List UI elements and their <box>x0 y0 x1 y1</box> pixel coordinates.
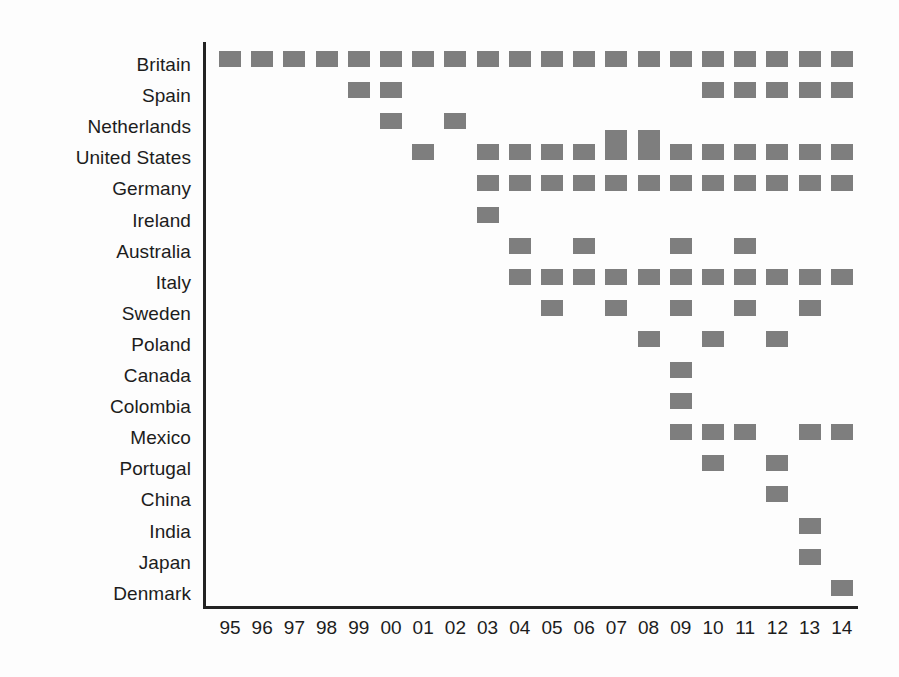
cell-marker <box>509 144 531 160</box>
cell-marker <box>734 175 756 191</box>
cell-marker <box>412 144 434 160</box>
cell-marker <box>380 51 402 67</box>
cell-marker <box>219 51 241 67</box>
cell-marker <box>477 51 499 67</box>
cell-marker <box>670 362 692 378</box>
cell-marker <box>831 175 853 191</box>
cell-marker <box>831 269 853 285</box>
cell-marker <box>702 82 724 98</box>
cell-marker <box>541 269 563 285</box>
cell-marker <box>605 175 627 191</box>
cell-marker <box>670 238 692 254</box>
cell-marker <box>766 269 788 285</box>
cell-marker <box>799 549 821 565</box>
cell-marker <box>541 175 563 191</box>
x-axis-tick-labels: 9596979899000102030405060708091011121314 <box>0 616 899 646</box>
cell-marker <box>670 424 692 440</box>
cell-marker <box>605 300 627 316</box>
cell-marker <box>316 51 338 67</box>
cell-marker <box>702 175 724 191</box>
cell-marker <box>638 130 660 160</box>
cell-marker <box>831 580 853 596</box>
cell-marker <box>670 300 692 316</box>
cell-marker <box>477 144 499 160</box>
cell-marker <box>509 51 531 67</box>
cell-marker <box>380 82 402 98</box>
cell-marker <box>670 175 692 191</box>
cell-marker <box>766 455 788 471</box>
cell-marker <box>444 113 466 129</box>
cell-marker <box>380 113 402 129</box>
cell-marker <box>573 144 595 160</box>
cell-marker <box>702 269 724 285</box>
cell-marker <box>702 51 724 67</box>
cell-marker <box>766 486 788 502</box>
cell-marker <box>638 51 660 67</box>
cell-marker <box>541 300 563 316</box>
cell-marker <box>509 238 531 254</box>
cell-marker <box>605 51 627 67</box>
cell-marker <box>573 238 595 254</box>
cell-marker <box>734 238 756 254</box>
cell-marker <box>477 207 499 223</box>
cell-marker <box>573 51 595 67</box>
cell-marker <box>605 130 627 160</box>
cell-marker <box>766 51 788 67</box>
cell-marker <box>348 82 370 98</box>
cell-marker <box>734 82 756 98</box>
cell-marker <box>734 424 756 440</box>
cell-marker <box>831 424 853 440</box>
cell-marker <box>799 175 821 191</box>
cell-marker <box>799 424 821 440</box>
cell-marker <box>573 269 595 285</box>
cell-marker <box>444 51 466 67</box>
cell-marker <box>734 144 756 160</box>
cell-marker <box>734 269 756 285</box>
cell-marker <box>799 144 821 160</box>
cell-marker <box>670 51 692 67</box>
cell-marker <box>799 51 821 67</box>
cell-marker <box>509 269 531 285</box>
cell-marker <box>573 175 595 191</box>
cell-marker <box>734 51 756 67</box>
cell-marker <box>766 144 788 160</box>
cell-marker <box>477 175 499 191</box>
cell-marker <box>670 393 692 409</box>
chart-root: BritainSpainNetherlandsUnited StatesGerm… <box>0 0 899 677</box>
cell-marker <box>541 144 563 160</box>
cell-marker <box>605 269 627 285</box>
cell-marker <box>638 175 660 191</box>
cell-marker <box>541 51 563 67</box>
plot-area <box>0 0 899 677</box>
cell-marker <box>799 518 821 534</box>
cell-marker <box>348 51 370 67</box>
cell-marker <box>799 269 821 285</box>
cell-marker <box>831 51 853 67</box>
cell-marker <box>766 175 788 191</box>
x-axis-tick-14: 14 <box>822 616 862 640</box>
cell-marker <box>638 269 660 285</box>
cell-marker <box>509 175 531 191</box>
cell-marker <box>734 300 756 316</box>
cell-marker <box>283 51 305 67</box>
cell-marker <box>702 144 724 160</box>
cell-marker <box>702 455 724 471</box>
cell-marker <box>412 51 434 67</box>
cell-marker <box>702 424 724 440</box>
cell-marker <box>638 331 660 347</box>
cell-marker <box>670 144 692 160</box>
cell-marker <box>831 82 853 98</box>
cell-marker <box>670 269 692 285</box>
cell-marker <box>251 51 273 67</box>
cell-marker <box>766 82 788 98</box>
cell-marker <box>831 144 853 160</box>
cell-marker <box>799 82 821 98</box>
cell-marker <box>702 331 724 347</box>
cell-marker <box>799 300 821 316</box>
cell-marker <box>766 331 788 347</box>
